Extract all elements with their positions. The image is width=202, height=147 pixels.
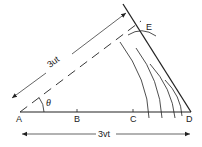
wavelet-arc-1: [120, 42, 149, 118]
wavefront-tangent-line: [123, 4, 191, 112]
angle-arc-theta: [39, 98, 44, 113]
wavefront-diagram: A B C D E θ 3ut 3vt: [0, 0, 202, 147]
point-label-a: A: [16, 114, 22, 124]
point-label-d: D: [186, 114, 193, 124]
dimension-arrow-3ut-lower: [12, 73, 46, 98]
point-label-c: C: [130, 114, 137, 124]
point-label-b: B: [74, 114, 80, 124]
angle-label-theta: θ: [46, 97, 51, 108]
point-label-e: E: [146, 22, 152, 32]
dimension-label-3vt: 3vt: [98, 129, 111, 139]
dimension-label-3ut: 3ut: [45, 54, 61, 70]
wavelet-arc-2: [136, 48, 162, 118]
ray-ae-dashed: [20, 21, 141, 112]
dimension-arrow-3ut-upper: [72, 13, 126, 54]
wavelet-arc-3: [150, 64, 175, 118]
